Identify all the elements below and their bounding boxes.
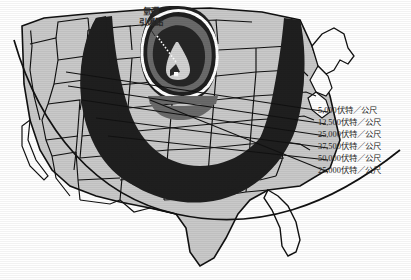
annotation-line-1: 氫彈 — [128, 6, 174, 17]
legend-item-3: 37,500伏特／公尺 — [318, 141, 411, 153]
annotation-line-2: 引爆點 — [128, 17, 174, 28]
legend: 5,000伏特／公尺 12,500伏特／公尺 25,000伏特／公尺 37,50… — [318, 105, 411, 178]
legend-item-1: 12,500伏特／公尺 — [318, 117, 411, 129]
legend-item-0: 5,000伏特／公尺 — [318, 105, 411, 117]
legend-item-4: 50,000伏特／公尺 — [318, 153, 411, 165]
ground-zero-marker — [174, 72, 178, 76]
legend-item-5: 25,000伏特／公尺 — [318, 165, 411, 177]
emp-map-figure: 氫彈 引爆點 5,000伏特／公尺 12,500伏特／公尺 25,000伏特／公… — [0, 0, 411, 280]
detonation-annotation: 氫彈 引爆點 — [128, 6, 174, 28]
legend-item-2: 25,000伏特／公尺 — [318, 129, 411, 141]
